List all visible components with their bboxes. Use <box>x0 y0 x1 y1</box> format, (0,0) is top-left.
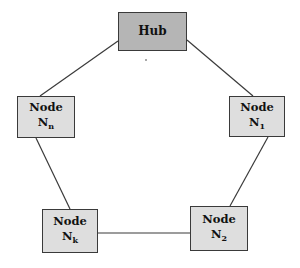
hub-label: Hub <box>138 24 166 39</box>
node-n1-name: N1 <box>249 115 265 134</box>
edge-n1-n2 <box>230 137 268 206</box>
node-n1-box: Node N1 <box>229 96 285 137</box>
node-nn-label: Node <box>29 100 63 115</box>
node-nk-label: Node <box>53 214 87 229</box>
edge-nn-hub <box>40 41 118 96</box>
edge-nk-nn <box>36 138 70 209</box>
stray-dot <box>145 59 147 61</box>
node-nn-box: Node Nn <box>17 96 75 138</box>
node-n2-label: Node <box>202 212 236 227</box>
node-n2-subscript: 2 <box>221 233 227 243</box>
node-nk-box: Node Nk <box>42 209 98 253</box>
node-nn-name: Nn <box>38 115 54 134</box>
node-nk-name: Nk <box>62 229 78 248</box>
ring-topology-diagram: Hub Node N1 Node N2 Node Nk Node Nn <box>0 0 300 268</box>
node-n1-label: Node <box>240 100 274 115</box>
node-n2-box: Node N2 <box>190 206 248 251</box>
node-n1-subscript: 1 <box>259 121 265 131</box>
edge-hub-n1 <box>187 40 253 96</box>
hub-box: Hub <box>118 12 187 51</box>
node-nn-subscript: n <box>48 121 54 131</box>
node-nk-subscript: k <box>72 235 78 245</box>
node-n2-name: N2 <box>211 227 227 246</box>
